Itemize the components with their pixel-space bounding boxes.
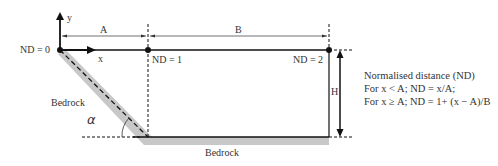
dimension-b-label: B: [235, 25, 242, 35]
legend-line-2: For x ≥ A; ND = 1+ (x − A)/B: [364, 95, 491, 108]
legend-title: Normalised distance (ND): [364, 69, 491, 82]
nd1-label: ND = 1: [152, 55, 182, 65]
bedrock-base-band: [144, 137, 329, 145]
bedrock-slope-label: Bedrock: [51, 98, 85, 108]
dimension-a-label: A: [100, 25, 107, 35]
point-nd2: [326, 47, 332, 53]
x-axis-label: x: [98, 54, 103, 64]
dimension-h-label: H: [331, 87, 338, 97]
y-axis-label: y: [67, 13, 72, 23]
y-axis-arrow: [56, 12, 64, 20]
nd0-label: ND = 0: [20, 45, 50, 55]
nd2-label: ND = 2: [293, 55, 323, 65]
bedrock-base-label: Bedrock: [205, 148, 239, 158]
legend-line-1: For x < A; ND = x/A;: [364, 82, 491, 95]
x-axis-arrow: [87, 46, 96, 54]
legend-note: Normalised distance (ND) For x < A; ND =…: [364, 69, 491, 108]
point-nd0: [57, 47, 63, 53]
point-nd1: [145, 47, 151, 53]
angle-alpha-label: α: [87, 113, 96, 126]
